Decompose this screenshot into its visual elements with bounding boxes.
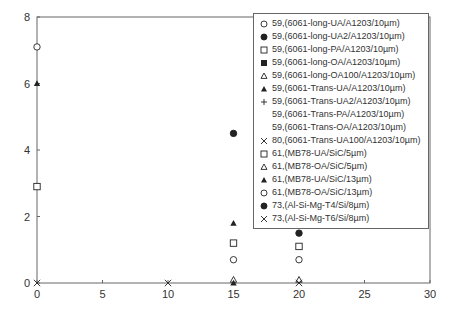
- y-tick-label: 8: [24, 11, 30, 23]
- open-triangle-marker-icon: [258, 162, 269, 172]
- legend-label: 59,(6061-Trans-PA/A1203/10µm): [272, 108, 404, 121]
- legend-entry: 59,(6061-Trans-UA2/A1203/10µm): [258, 95, 424, 108]
- filled-square-marker-icon: [258, 58, 269, 68]
- x-tick-label: 15: [227, 288, 239, 300]
- x-tick-label: 10: [162, 288, 174, 300]
- cross-marker-icon: [258, 136, 269, 146]
- legend: 59,(6061-long-UA/A1203/10µm)59,(6061-lon…: [253, 13, 429, 229]
- x-tick-label: 5: [99, 288, 105, 300]
- legend-entry: 59,(6061-Trans-PA/A1203/10µm): [258, 108, 424, 121]
- data-point: [230, 240, 236, 246]
- data-point: [296, 243, 302, 249]
- open-circle-marker-icon: [258, 188, 269, 198]
- data-point: [34, 44, 40, 50]
- data-point: [296, 230, 302, 236]
- y-tick-label: 6: [24, 78, 30, 90]
- legend-label: 59,(6061-long-UA/A1203/10µm): [272, 17, 400, 30]
- legend-label: 59,(6061-Trans-OA/A1203/10µm): [272, 121, 406, 134]
- legend-label: 59,(6061-long-OA100/A1203/10µm): [272, 69, 415, 82]
- legend-label: 61,(MB78-OA/SiC/5µm): [272, 160, 367, 173]
- legend-entry: 80,(6061-Trans-UA100/A1203/10µm): [258, 134, 424, 147]
- legend-entry: 59,(6061-Trans-OA/A1203/10µm): [258, 121, 424, 134]
- legend-label: 61,(MB78-OA/SiC/13µm): [272, 186, 372, 199]
- filled-triangle-marker-icon: [258, 84, 269, 94]
- legend-entry: 73,(Al-Si-Mg-T6/Si/8µm): [258, 212, 424, 225]
- legend-label: 59,(6061-Trans-UA/A1203/10µm): [272, 82, 405, 95]
- data-point: [230, 220, 236, 226]
- legend-label: 59,(6061-long-PA/A1203/10µm): [272, 43, 399, 56]
- open-circle-marker-icon: [258, 19, 269, 29]
- legend-entry: 59,(6061-long-UA2/A1203/10µm): [258, 30, 424, 43]
- cross-marker-icon: [258, 214, 269, 224]
- y-tick-label: 2: [24, 211, 30, 223]
- legend-entry: 59,(6061-long-OA/A1203/10µm): [258, 56, 424, 69]
- legend-label: 80,(6061-Trans-UA100/A1203/10µm): [272, 134, 420, 147]
- legend-entry: 73,(Al-Si-Mg-T4/Si/8µm): [258, 199, 424, 212]
- filled-circle-marker-icon: [258, 32, 269, 42]
- x-tick-label: 25: [358, 288, 370, 300]
- open-square-marker-icon: [258, 45, 269, 55]
- x-tick-label: 0: [34, 288, 40, 300]
- legend-entry: 59,(6061-long-PA/A1203/10µm): [258, 43, 424, 56]
- plus-marker-icon: [258, 97, 269, 107]
- legend-label: 59,(6061-long-OA/A1203/10µm): [272, 56, 400, 69]
- data-point: [296, 257, 302, 263]
- filled-triangle-marker-icon: [258, 175, 269, 185]
- legend-label: 61,(MB78-UA/SiC/5µm): [272, 147, 367, 160]
- legend-label: 59,(6061-long-UA2/A1203/10µm): [272, 30, 405, 43]
- filled-circle-marker-icon: [258, 201, 269, 211]
- data-point: [230, 130, 236, 136]
- legend-label: 59,(6061-Trans-UA2/A1203/10µm): [272, 95, 410, 108]
- blank-marker-icon: [258, 123, 269, 133]
- legend-entry: 59,(6061-long-UA/A1203/10µm): [258, 17, 424, 30]
- x-tick-label: 20: [293, 288, 305, 300]
- legend-entry: 59,(6061-long-OA100/A1203/10µm): [258, 69, 424, 82]
- legend-label: 61,(MB78-UA/SiC/13µm): [272, 173, 372, 186]
- legend-label: 73,(Al-Si-Mg-T6/Si/8µm): [272, 212, 369, 225]
- legend-entry: 59,(6061-Trans-UA/A1203/10µm): [258, 82, 424, 95]
- legend-entry: 61,(MB78-UA/SiC/13µm): [258, 173, 424, 186]
- y-tick-label: 0: [24, 277, 30, 289]
- legend-entry: 61,(MB78-OA/SiC/5µm): [258, 160, 424, 173]
- data-point: [34, 183, 40, 189]
- y-tick-label: 4: [24, 144, 30, 156]
- legend-entry: 61,(MB78-OA/SiC/13µm): [258, 186, 424, 199]
- open-square-marker-icon: [258, 149, 269, 159]
- open-triangle-marker-icon: [258, 71, 269, 81]
- legend-label: 73,(Al-Si-Mg-T4/Si/8µm): [272, 199, 369, 212]
- data-point: [230, 257, 236, 263]
- legend-entry: 61,(MB78-UA/SiC/5µm): [258, 147, 424, 160]
- blank-marker-icon: [258, 110, 269, 120]
- x-tick-label: 30: [424, 288, 436, 300]
